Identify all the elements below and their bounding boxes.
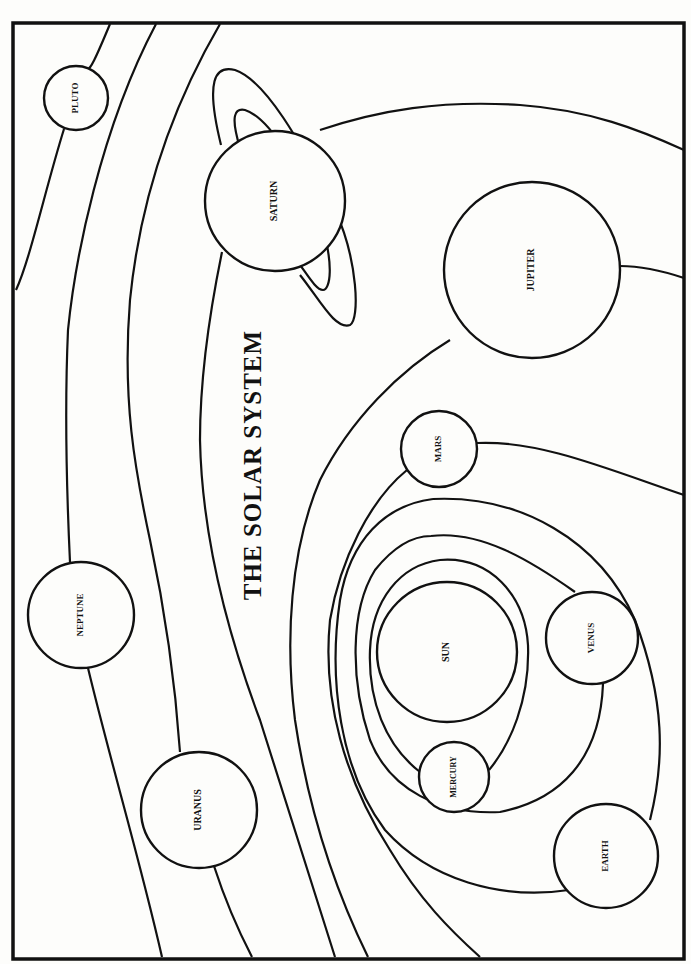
pluto-label: PLUTO [70,83,80,114]
planet-venus: VENUS [546,592,638,684]
jupiter-label: JUPITER [525,248,536,292]
planet-neptune: NEPTUNE [28,562,134,668]
earth-label: EARTH [600,840,610,872]
planet-pluto: PLUTO [44,66,108,130]
venus-label: VENUS [586,623,596,654]
planets-layer: SUNMERCURYVENUSEARTHMARSJUPITERSATURNURA… [0,0,691,964]
planet-earth: EARTH [554,804,658,908]
neptune-label: NEPTUNE [75,593,85,636]
planet-saturn: SATURN [205,131,345,271]
planet-uranus: URANUS [141,752,257,868]
solar-system-diagram: SUNMERCURYVENUSEARTHMARSJUPITERSATURNURA… [0,0,691,964]
planet-mars: MARS [401,411,477,487]
mars-label: MARS [433,436,443,463]
planet-sun: SUN [377,582,517,722]
planet-mercury: MERCURY [419,742,489,812]
mercury-label: MERCURY [449,756,458,798]
planet-jupiter: JUPITER [444,182,620,358]
sun-label: SUN [440,641,451,662]
uranus-label: URANUS [192,789,203,831]
saturn-label: SATURN [268,180,279,221]
